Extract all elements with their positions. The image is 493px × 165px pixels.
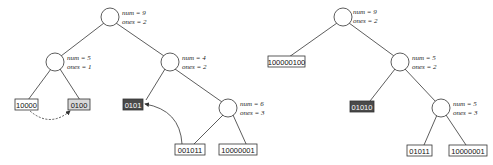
tree-before: num = 9 ones = 2 num = 5 ones = 1 num = … <box>15 8 265 155</box>
node-num-label: num = 5 <box>412 54 436 62</box>
tree-node-root <box>101 8 119 26</box>
leaf-label: 100000100 <box>268 58 306 67</box>
tree-node-right <box>161 53 179 71</box>
node-num-label: num = 9 <box>122 9 146 17</box>
node-num-label: num = 4 <box>182 54 206 62</box>
leaf-label: 0100 <box>71 101 88 110</box>
node-num-label: num = 9 <box>353 8 377 16</box>
tree-node-right-right <box>219 99 237 117</box>
edges <box>28 23 247 146</box>
node-num-label: num = 6 <box>240 100 264 108</box>
leaf-label: 10000001 <box>221 146 254 155</box>
leaf-label: 001011 <box>178 146 202 155</box>
edges <box>289 23 466 145</box>
node-ones-label: ones = 3 <box>240 109 265 117</box>
node-num-label: num = 5 <box>453 100 477 108</box>
tree-diagram: num = 9 ones = 2 num = 5 ones = 1 num = … <box>0 0 493 165</box>
node-ones-label: ones = 2 <box>182 63 207 71</box>
node-ones-label: ones = 2 <box>122 18 147 26</box>
leaf-label: 01010 <box>352 103 373 112</box>
leaf-label: 10000001 <box>451 147 484 156</box>
node-num-label: num = 5 <box>67 54 91 62</box>
node-ones-label: ones = 2 <box>412 63 437 71</box>
leaf-label: 10000 <box>16 101 37 110</box>
leaf-label: 0101 <box>125 101 142 110</box>
tree-node-right-right <box>432 99 450 117</box>
tree-after: num = 9 ones = 2 num = 5 ones = 2 num = … <box>268 8 487 156</box>
tree-node-right <box>391 53 409 71</box>
leaf-label: 01011 <box>409 147 429 156</box>
tree-node-root <box>334 8 352 26</box>
node-ones-label: ones = 1 <box>67 63 92 71</box>
node-ones-label: ones = 2 <box>353 17 378 25</box>
dashed-arrow <box>30 111 70 120</box>
node-ones-label: ones = 3 <box>453 109 478 117</box>
tree-node-left <box>46 53 64 71</box>
solid-arrow <box>145 104 182 144</box>
